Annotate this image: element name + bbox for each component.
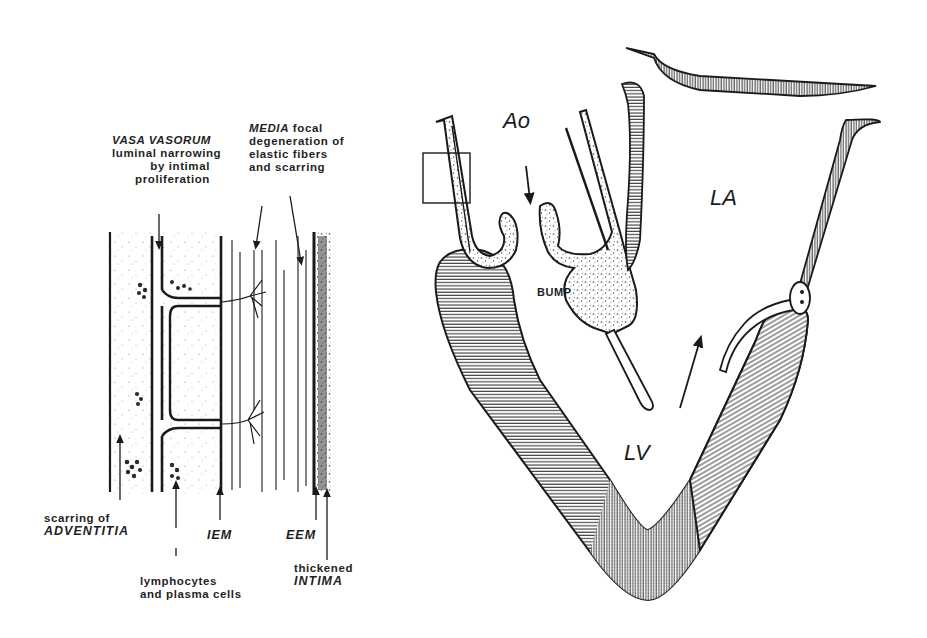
anterior-mitral-leaflet: [606, 330, 653, 410]
intima-term: INTIMA: [294, 575, 353, 588]
label-vasa-vasorum: VASA VASORUM luminal narrowing by intima…: [112, 134, 210, 186]
label-eem: EEM: [286, 529, 316, 542]
vasa-vasorum-term: VASA VASORUM: [112, 134, 210, 147]
media-desc-3: and scarring: [249, 161, 344, 174]
label-aorta: Ao: [503, 108, 530, 134]
mitral-flow-arrow: [680, 340, 700, 408]
mitral-annulus: [790, 282, 810, 314]
label-left-ventricle: LV: [624, 440, 650, 466]
aortic-wall-section: [108, 196, 331, 560]
label-intima: thickened INTIMA: [294, 562, 353, 588]
heart-schematic: [423, 48, 880, 600]
label-lymphocytes: lymphocytes and plasma cells: [140, 575, 242, 601]
septal-bump: [540, 110, 637, 334]
pulmonary-artery-segment: [626, 48, 876, 96]
media-desc-1: degeneration of: [249, 135, 344, 148]
la-anterior-wall: [622, 83, 644, 271]
illustration-canvas: [0, 0, 927, 638]
label-adventitia: scarring of ADVENTITIA: [44, 512, 129, 538]
aortic-wall-left: [436, 116, 518, 268]
aortic-flow-arrow: [526, 166, 530, 200]
label-bump: BUMP: [537, 286, 572, 299]
label-left-atrium: LA: [710, 185, 737, 211]
vasa-vasorum-desc-3: proliferation: [112, 173, 210, 186]
vasa-vasorum-desc-2: by intimal: [112, 160, 210, 173]
adventitia-term: ADVENTITIA: [44, 525, 129, 538]
la-posterior-wall: [796, 119, 880, 300]
media-desc-2: elastic fibers: [249, 148, 344, 161]
lymphocytes-line2: and plasma cells: [140, 588, 242, 601]
media-term: MEDIA: [249, 122, 289, 134]
media-desc-0: focal: [293, 122, 323, 134]
label-media: MEDIA focal degeneration of elastic fibe…: [249, 122, 344, 174]
vasa-vasorum-desc-1: luminal narrowing: [112, 147, 210, 160]
label-iem: IEM: [207, 529, 232, 542]
lymphocytes-line1: lymphocytes: [140, 575, 242, 588]
